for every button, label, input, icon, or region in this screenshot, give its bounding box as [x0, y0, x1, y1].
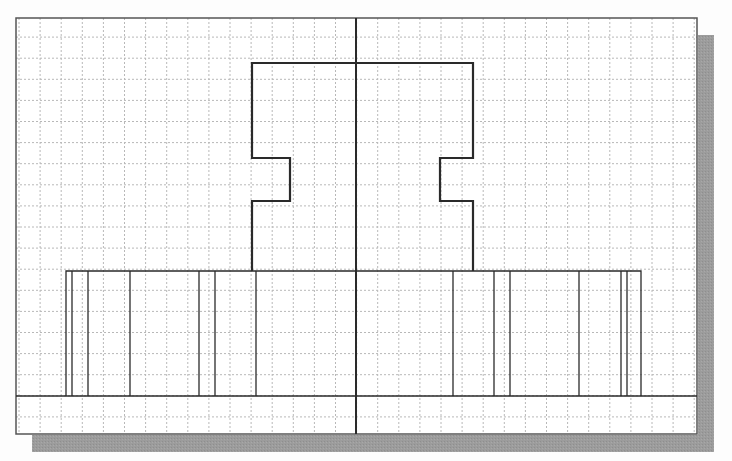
shadow-bottom: [32, 435, 714, 452]
cad-drawing-canvas: [0, 0, 732, 461]
shadow-right: [698, 35, 714, 452]
drawing-svg: [0, 0, 732, 461]
